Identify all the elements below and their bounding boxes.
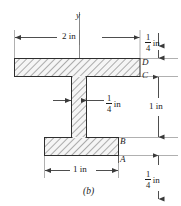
point-b-label: B [120, 137, 126, 146]
dimension-bottom-width-label: 1 in [73, 165, 87, 174]
fraction-unit: in [151, 38, 160, 48]
point-c-label: C [142, 71, 148, 80]
fraction-unit: in [112, 99, 121, 109]
point-a-label: A [120, 155, 126, 164]
fraction-unit: in [151, 175, 160, 185]
dimension-web-thickness-label: 1 4 in [106, 94, 121, 114]
dimension-bottom-flange-thickness-label: 1 4 in [145, 170, 160, 190]
cross-section-figure: y 2 in 1 4 in D C 1 4 in 1 in B A 1 in 1… [0, 0, 181, 206]
dimension-top-flange-thickness-label: 1 4 in [145, 33, 160, 53]
y-axis-label: y [76, 11, 80, 20]
point-d-label: D [142, 58, 149, 67]
figure-caption: (b) [83, 187, 94, 197]
dimension-top-width-label: 2 in [62, 32, 76, 41]
dimension-web-height-label: 1 in [149, 102, 163, 111]
